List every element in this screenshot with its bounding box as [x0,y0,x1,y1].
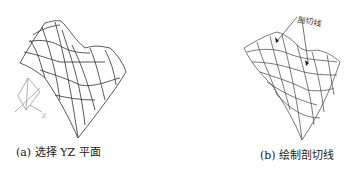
panel-b: 剖切线 (b) 绘制剖切线 [182,0,364,175]
axis-label-z: Z [42,112,46,119]
caption-b: (b) 绘制剖切线 [260,146,334,162]
panel-a: Z (a) 选择 YZ 平面 [0,0,182,175]
arrowhead-icon [305,60,309,66]
axis-triad-icon [15,78,42,112]
caption-a: (a) 选择 YZ 平面 [16,143,101,159]
